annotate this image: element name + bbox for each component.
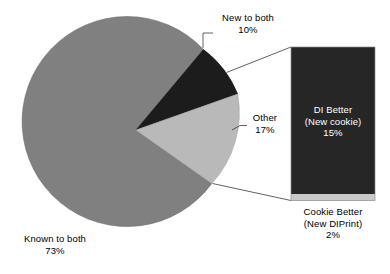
pie-chart-figure: New to both 10% Other 17% Known to both … [0,0,390,274]
label-di-better-title: DI Better [291,104,375,116]
label-cookie-better-sublabel: (New DIPrint) [285,218,381,230]
label-new-to-both: New to both 10% [206,12,290,35]
leader-line-top [227,47,292,73]
label-cookie-better-title: Cookie Better [285,206,381,218]
label-di-better: DI Better (New cookie) 15% [291,104,375,139]
label-other-value: 17% [244,124,286,136]
label-other-title: Other [244,112,286,124]
label-known-to-both-title: Known to both [6,233,104,245]
label-new-to-both-value: 10% [206,24,290,36]
label-di-better-value: 15% [291,127,375,139]
label-known-to-both-value: 73% [6,245,104,257]
leader-line-bottom [213,184,292,201]
label-di-better-sublabel: (New cookie) [291,116,375,128]
label-known-to-both: Known to both 73% [6,233,104,256]
label-other: Other 17% [244,112,286,135]
detail-bar-segment-cookie-better [291,194,375,201]
callout-tick-new-to-both [203,33,213,48]
label-new-to-both-title: New to both [206,12,290,24]
label-cookie-better: Cookie Better (New DIPrint) 2% [285,206,381,241]
label-cookie-better-value: 2% [285,229,381,241]
